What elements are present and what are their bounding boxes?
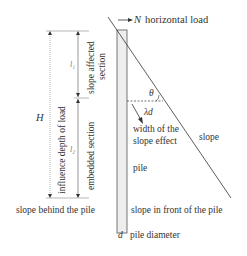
H-label: H <box>36 113 44 123</box>
section-label: section <box>97 53 107 80</box>
d-symbol: d <box>118 230 123 240</box>
l1-label: l₁ <box>70 60 75 70</box>
embedded-section-label: embedded section <box>86 122 96 190</box>
theta-arc <box>156 95 159 101</box>
slope-behind-label: slope behind the pile <box>16 205 95 215</box>
theta-label: θ <box>149 88 154 98</box>
load-arrow-head <box>128 18 133 22</box>
width-label-2: slope effect <box>133 136 177 146</box>
slope-label: slope <box>199 132 219 142</box>
pile-rect <box>117 30 127 233</box>
width-arrow-head <box>138 117 143 124</box>
pile-label: pile <box>133 163 147 173</box>
width-label-1: width of the <box>133 124 179 134</box>
influence-depth-label: influence depth of load <box>57 106 67 194</box>
lambda-d-label: λd <box>144 107 153 117</box>
load-symbol: N <box>134 15 141 25</box>
diagram-canvas <box>0 0 247 256</box>
d-label: pile diameter <box>130 230 180 240</box>
slope-front-label: slope in front of the pile <box>131 205 223 215</box>
l2-label: l₂ <box>70 145 75 155</box>
slope-affected-label: slope affected <box>86 41 96 94</box>
width-arrow <box>132 104 141 120</box>
load-label: horizontal load <box>145 15 208 25</box>
